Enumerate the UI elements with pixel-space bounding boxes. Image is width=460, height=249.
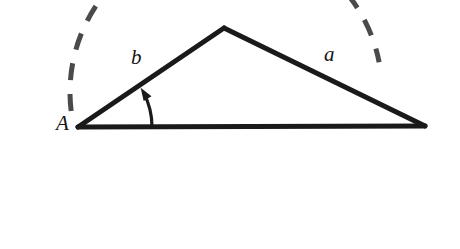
angle-arrow-at-a: [141, 88, 152, 127]
geometry-figure: A b a: [0, 0, 460, 249]
side-label-b: b: [131, 47, 142, 68]
triangle-base: [78, 126, 425, 127]
side-label-a: a: [324, 44, 335, 65]
angle-arrowhead: [141, 88, 152, 101]
vertex-label-a: A: [56, 113, 69, 134]
figure-canvas: [0, 0, 460, 249]
